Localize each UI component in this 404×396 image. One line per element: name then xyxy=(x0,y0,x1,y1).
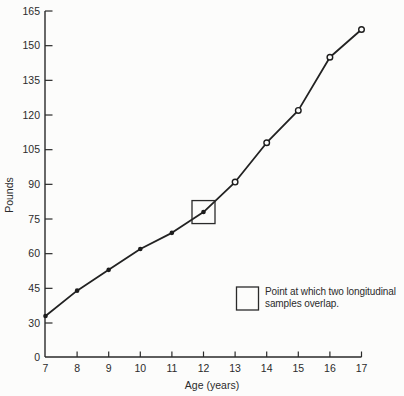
x-tick-label: 13 xyxy=(229,362,241,374)
x-tick-label: 8 xyxy=(74,362,80,374)
y-tick-label: 60 xyxy=(28,247,40,259)
weight-by-age-line-chart: 0304560759010512013515016578910111213141… xyxy=(0,0,404,396)
data-point-age-8 xyxy=(75,288,80,293)
data-point-age-12 xyxy=(201,210,206,215)
y-tick-label: 150 xyxy=(22,39,40,51)
legend-text-line2: samples overlap. xyxy=(265,298,339,309)
x-tick-label: 7 xyxy=(43,362,49,374)
legend: Point at which two longitudinal samples … xyxy=(237,286,396,311)
growth-chart-figure: 0304560759010512013515016578910111213141… xyxy=(0,0,404,396)
data-point-age-11 xyxy=(170,231,175,236)
data-point-age-15 xyxy=(296,108,302,114)
data-point-age-13 xyxy=(232,179,238,185)
x-tick-label: 9 xyxy=(106,362,112,374)
data-point-age-9 xyxy=(106,268,111,273)
y-tick-label: 120 xyxy=(22,109,40,121)
data-point-age-17 xyxy=(359,27,365,33)
y-tick-label: 165 xyxy=(22,5,40,17)
y-tick-label: 135 xyxy=(22,74,40,86)
legend-text-line1: Point at which two longitudinal xyxy=(265,286,396,297)
y-axis-title: Pounds xyxy=(3,177,15,213)
growth-curve-line xyxy=(46,30,362,317)
y-tick-label: 0 xyxy=(34,351,40,363)
y-tick-label: 105 xyxy=(22,143,40,155)
y-tick-label: 45 xyxy=(28,282,40,294)
x-tick-label: 16 xyxy=(324,362,336,374)
x-tick-label: 15 xyxy=(292,362,304,374)
x-tick-label: 10 xyxy=(134,362,146,374)
chart-plot-area: 0304560759010512013515016578910111213141… xyxy=(22,5,367,374)
legend-marker-box xyxy=(237,287,259,310)
y-tick-label: 90 xyxy=(28,178,40,190)
x-tick-label: 14 xyxy=(261,362,273,374)
x-tick-label: 11 xyxy=(166,362,177,374)
data-point-age-16 xyxy=(327,54,333,60)
x-tick-label: 17 xyxy=(356,362,368,374)
x-tick-label: 12 xyxy=(198,362,210,374)
y-tick-label: 30 xyxy=(28,317,40,329)
y-tick-label: 75 xyxy=(28,213,40,225)
x-axis-title: Age (years) xyxy=(185,379,239,391)
data-point-age-7 xyxy=(43,314,48,319)
data-point-age-14 xyxy=(264,140,270,146)
data-point-age-10 xyxy=(138,247,143,252)
